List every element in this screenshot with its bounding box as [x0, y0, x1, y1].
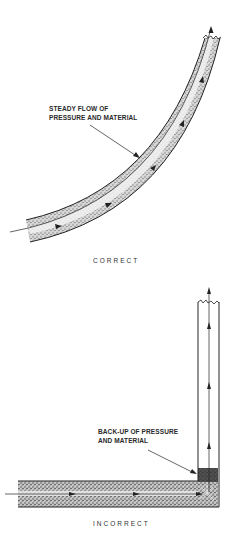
callout-arrowhead-icon [190, 469, 197, 474]
curved-pipe [10, 26, 221, 242]
callout-leader-line [148, 450, 194, 473]
flow-arrow-icon [207, 442, 211, 449]
incorrect-caption: INCORRECT [93, 520, 150, 527]
flow-arrow-icon [209, 26, 214, 33]
callout-arrowhead-icon [133, 152, 140, 158]
flow-arrow-icon [207, 322, 211, 329]
incorrect-callout-line1: BACK-UP OF PRESSURE [98, 428, 178, 436]
correct-callout-line2: PRESSURE AND MATERIAL [49, 114, 137, 122]
correct-caption: CORRECT [93, 257, 139, 264]
callout-leader-line [90, 125, 138, 157]
incorrect-diagram-panel: BACK-UP OF PRESSURE AND MATERIAL INCORRE… [0, 270, 234, 536]
flow-arrow-icon [207, 382, 211, 389]
curved-pipe-diagram [0, 0, 234, 270]
flow-arrow-icon [207, 287, 211, 294]
right-angle-pipe-diagram [0, 270, 234, 536]
correct-diagram-panel: STEADY FLOW OF PRESSURE AND MATERIAL COR… [0, 0, 234, 270]
correct-callout-line1: STEADY FLOW OF [49, 105, 108, 113]
incorrect-callout-line2: AND MATERIAL [98, 437, 148, 445]
right-angle-pipe [5, 287, 219, 507]
